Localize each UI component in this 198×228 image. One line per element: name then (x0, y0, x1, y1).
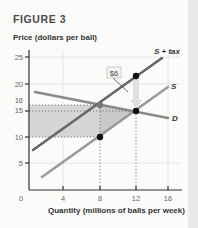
label-s: S (171, 82, 177, 91)
point-8-10 (97, 134, 103, 140)
chart: 25 20 16 15 10 5 0 4 8 12 16 $6 S + tax … (0, 0, 198, 228)
point-12-15 (133, 108, 139, 114)
x-tick-8: 8 (98, 194, 102, 203)
x-tick-4: 4 (61, 194, 65, 203)
point-12-21 (133, 73, 139, 79)
y-tick-labels: 25 20 16 15 10 5 (15, 53, 23, 168)
x-tick-16: 16 (164, 194, 172, 203)
x-tick-12: 12 (132, 194, 140, 203)
point-8-16 (97, 102, 103, 108)
y-tick-15: 15 (15, 106, 23, 115)
y-tick-5: 5 (19, 159, 23, 168)
label-s-plus-tax: S + tax (154, 47, 181, 56)
y-tick-10: 10 (15, 133, 23, 142)
label-d: D (172, 114, 178, 123)
x-axis-label: Quantity (millions of balls per week) (48, 206, 185, 215)
x-tick-labels: 0 4 8 12 16 (19, 194, 172, 203)
x-tick-0: 0 (19, 194, 23, 203)
y-tick-16: 16 (15, 96, 23, 105)
y-tick-25: 25 (15, 53, 23, 62)
tax-label: $6 (110, 69, 118, 78)
y-tick-20: 20 (15, 80, 23, 89)
